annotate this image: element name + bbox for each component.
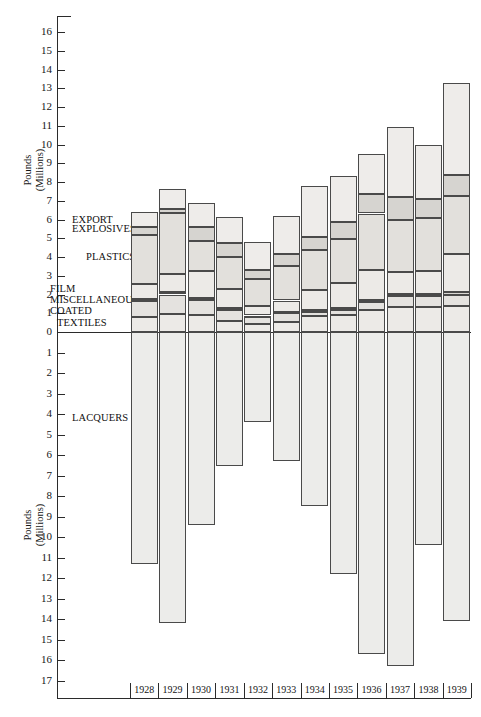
x-axis-label-1935: 1935 — [329, 684, 357, 696]
x-axis-label-1937: 1937 — [386, 684, 414, 696]
stacked-bar-chart: 161514131211109876543210 123456789101112… — [0, 0, 481, 717]
bar-segment-1939-coated — [443, 295, 470, 306]
bar-segment-1939-film — [443, 254, 470, 292]
x-axis-label-1929: 1929 — [158, 684, 186, 696]
bar-segment-1939-explosives — [443, 175, 470, 196]
x-axis-label-1931: 1931 — [215, 684, 243, 696]
x-axis-label-1930: 1930 — [187, 684, 215, 696]
bar-segment-1939-lacquers — [443, 332, 470, 621]
bar-segment-1939-textiles — [443, 306, 470, 332]
x-axis-baseline — [57, 698, 471, 699]
x-axis-label-1934: 1934 — [301, 684, 329, 696]
bar-group-1939 — [0, 0, 481, 717]
x-axis-label-1933: 1933 — [272, 684, 300, 696]
x-axis-label-1939: 1939 — [443, 684, 471, 696]
x-axis-label-1928: 1928 — [130, 684, 158, 696]
bar-segment-1939-export — [443, 83, 470, 175]
year-separator-end — [471, 683, 472, 698]
bar-segment-1939-miscellaneous — [443, 292, 470, 294]
bar-segment-1939-plastics — [443, 196, 470, 254]
x-axis-label-1936: 1936 — [357, 684, 385, 696]
x-axis-label-1938: 1938 — [414, 684, 442, 696]
x-axis-label-1932: 1932 — [244, 684, 272, 696]
